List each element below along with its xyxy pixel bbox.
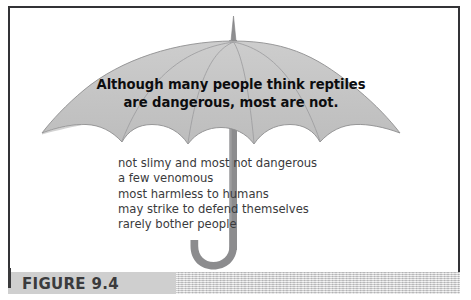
figure-caption-band: FIGURE 9.4 — [8, 272, 460, 294]
canopy-message-line-2: are dangerous, most are not. — [86, 94, 376, 112]
fact-list-item: rarely bother people — [118, 217, 388, 232]
canopy-message-line-1: Although many people think reptiles — [86, 76, 376, 94]
figure-container: Although many people think reptiles are … — [0, 0, 471, 300]
fact-list-item: most harmless to humans — [118, 187, 388, 202]
canopy-message: Although many people think reptiles are … — [86, 76, 376, 111]
caption-left-tick — [8, 268, 11, 288]
fact-list-item: may strike to defend themselves — [118, 202, 388, 217]
figure-caption-label: FIGURE 9.4 — [22, 275, 119, 293]
fact-list-item: a few venomous — [118, 171, 388, 186]
fact-list: not slimy and most not dangerous a few v… — [118, 156, 388, 232]
fact-list-item: not slimy and most not dangerous — [118, 156, 388, 171]
figure-frame-border — [8, 6, 460, 287]
